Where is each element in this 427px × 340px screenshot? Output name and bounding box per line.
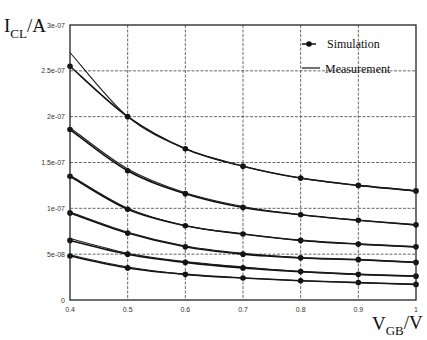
svg-text:Simulation: Simulation: [327, 37, 380, 51]
legend-item-measurement: Measurement: [302, 62, 391, 76]
y-tick-label: 1.5e-07: [41, 159, 65, 166]
svg-text:Measurement: Measurement: [325, 62, 391, 76]
svg-text:VGB/V: VGB/V: [372, 312, 423, 338]
x-tick-label: 0.7: [238, 306, 248, 313]
y-axis-label: ICL/A: [4, 15, 46, 41]
y-tick-label: 2e-07: [47, 113, 65, 120]
data-point-marker: [240, 251, 246, 257]
legend: Simulation Measurement: [302, 37, 391, 76]
y-tick-label: 2.5e-07: [41, 67, 65, 74]
x-tick-label: 0.6: [180, 306, 190, 313]
dot-marker-icon: [306, 41, 312, 47]
data-point-marker: [125, 265, 131, 271]
y-tick-label: 1e-07: [47, 205, 65, 212]
x-axis-ticks: 0.40.50.60.70.80.91: [65, 306, 418, 313]
x-tick-label: 0.5: [123, 306, 133, 313]
y-axis-ticks: 05e-081e-071.5e-072e-072.5e-073e-07: [41, 22, 65, 304]
data-point-marker: [240, 265, 246, 271]
y-tick-label: 5e-08: [47, 251, 65, 258]
x-axis-label: VGB/V: [372, 312, 423, 338]
y-tick-label: 0: [61, 297, 65, 304]
x-tick-label: 0.8: [296, 306, 306, 313]
data-point-marker: [183, 244, 189, 250]
chart: 05e-081e-071.5e-072e-072.5e-073e-07 0.40…: [0, 0, 427, 340]
svg-text:ICL/A: ICL/A: [4, 15, 46, 41]
data-point-marker: [183, 260, 189, 266]
x-tick-label: 0.4: [65, 306, 75, 313]
legend-item-simulation: Simulation: [302, 37, 380, 51]
y-tick-label: 3e-07: [47, 22, 65, 29]
x-tick-label: 0.9: [353, 306, 363, 313]
